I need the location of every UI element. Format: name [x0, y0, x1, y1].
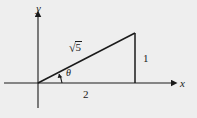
triangle-figure: y x √5 1 2 θ [0, 0, 197, 118]
hypotenuse-label: √5 [68, 41, 82, 54]
vertical-leg-label: 1 [143, 53, 149, 64]
angle-theta-label: θ [66, 68, 71, 78]
base-label: 2 [83, 89, 89, 100]
angle-arrowhead-icon [58, 74, 63, 78]
radical-expression: √5 [68, 41, 82, 54]
hypotenuse-line [38, 33, 135, 83]
x-axis-label: x [180, 78, 185, 89]
figure-canvas [0, 0, 197, 118]
radicand-value: 5 [75, 41, 83, 53]
y-axis-label: y [36, 3, 41, 14]
